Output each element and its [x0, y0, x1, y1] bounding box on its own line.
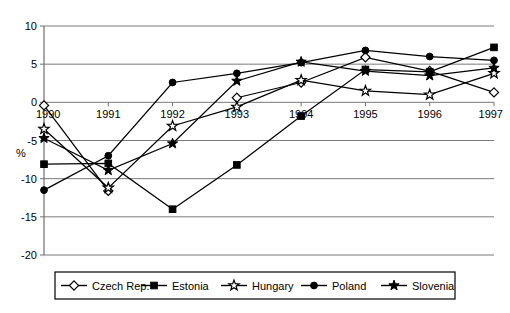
x-tick-label: 1995	[353, 108, 377, 120]
legend-item-czech-rep[interactable]: Czech Rep.	[61, 280, 149, 292]
x-tick-label: 1991	[96, 108, 120, 120]
legend-item-label: Slovenia	[412, 280, 455, 292]
data-point-marker-filled-circle	[41, 187, 48, 194]
chart-canvas: 1050-5-10-15-20 199019911992199319941995…	[0, 0, 510, 313]
y-tick-label: 5	[31, 58, 37, 70]
data-point-marker-filled-circle	[311, 282, 318, 289]
series-group	[39, 44, 499, 212]
data-point-marker-filled-square	[298, 113, 305, 120]
yaxis-title-group: %	[16, 147, 26, 159]
x-tick-label: 1997	[479, 108, 503, 120]
data-point-marker-filled-circle	[105, 152, 112, 159]
x-tick-label: 1996	[417, 108, 441, 120]
y-tick-label: -20	[21, 249, 37, 261]
ytick-labels-group: 1050-5-10-15-20	[21, 20, 37, 261]
data-point-marker-open-diamond	[489, 88, 498, 97]
legend-item-label: Hungary	[252, 280, 294, 292]
y-tick-label: 0	[31, 96, 37, 108]
data-point-marker-filled-square	[41, 161, 48, 168]
y-axis-title: %	[16, 147, 26, 159]
data-point-marker-filled-circle	[362, 47, 369, 54]
legend-item-label: Estonia	[172, 280, 210, 292]
legend-item-label: Czech Rep.	[92, 280, 149, 292]
data-point-marker-filled-square	[151, 282, 158, 289]
data-point-marker-filled-circle	[169, 79, 176, 86]
legend-group: Czech Rep.EstoniaHungaryPolandSlovenia	[55, 272, 455, 299]
xtick-labels-group: 19901991199219931994199519961997	[36, 108, 503, 120]
legend-item-label: Poland	[332, 280, 366, 292]
x-tick-label: 1993	[225, 108, 249, 120]
economic-growth-line-chart: 1050-5-10-15-20 199019911992199319941995…	[0, 0, 510, 313]
y-tick-label: -15	[21, 211, 37, 223]
data-point-marker-open-star	[360, 85, 370, 95]
x-tick-label: 1992	[160, 108, 184, 120]
data-point-marker-open-star	[425, 89, 435, 99]
data-point-marker-filled-square	[234, 162, 241, 169]
data-point-marker-filled-circle	[426, 53, 433, 60]
series-hungary	[39, 68, 499, 192]
data-point-marker-filled-square	[169, 206, 176, 213]
y-tick-label: -5	[27, 135, 37, 147]
y-tick-label: 10	[25, 20, 37, 32]
y-tick-label: -10	[21, 173, 37, 185]
data-point-marker-filled-square	[491, 44, 498, 51]
